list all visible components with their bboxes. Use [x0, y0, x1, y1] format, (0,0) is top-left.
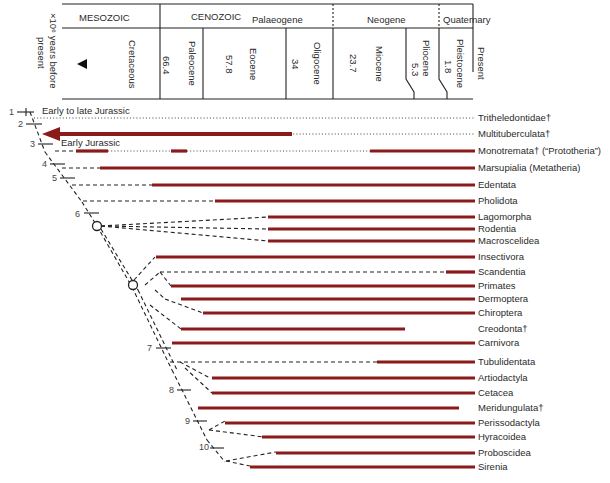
- taxon-label: Hyracoidea: [478, 431, 527, 442]
- phylogeny-diagram: MESOZOIC CENOZOIC Palaeogene Neogene Qua…: [0, 0, 610, 483]
- node-10: 10: [199, 442, 209, 452]
- annotation-early-jurassic: Early Jurassic: [61, 137, 120, 148]
- timescale-header: MESOZOIC CENOZOIC Palaeogene Neogene Qua…: [36, 4, 491, 99]
- node-8: 8: [169, 385, 174, 395]
- arrow-left-icon: [77, 59, 87, 69]
- taxon-label: Monotremata† (“Prototheria”): [478, 145, 601, 156]
- taxon-label: Perissodactyla: [478, 417, 540, 428]
- period-quaternary: Quaternary: [443, 14, 491, 25]
- epoch-present: Present: [476, 47, 487, 80]
- node-5: 5: [52, 173, 57, 183]
- age-23-7: 23.7: [348, 54, 359, 73]
- taxon-label: Chiroptera: [478, 307, 523, 318]
- node-4: 4: [42, 159, 47, 169]
- epoch-pliocene: Pliocene: [421, 40, 432, 76]
- epoch-eocene: Eocene: [248, 48, 259, 80]
- node-circle: [129, 281, 138, 290]
- period-palaeogene: Palaeogene: [252, 14, 303, 25]
- epoch-paleocene: Paleocene: [187, 41, 198, 86]
- taxon-label: Sirenia: [478, 461, 508, 472]
- taxon-label: Insectivora: [478, 251, 525, 262]
- age-57-8: 57.8: [224, 55, 235, 74]
- range-bars: [100, 168, 475, 467]
- node-6: 6: [75, 209, 80, 219]
- taxon-label: Tritheledontidae†: [478, 112, 551, 123]
- node-1: 1: [9, 107, 14, 117]
- taxon-label: Rodentia: [478, 223, 517, 234]
- annotation-early-to-late-jurassic: Early to late Jurassic: [42, 105, 130, 116]
- axis-label-line1: ×10⁶ years before: [48, 13, 59, 88]
- epoch-oligocene: Oligocene: [312, 42, 323, 85]
- node-7: 7: [147, 343, 152, 353]
- period-neogene: Neogene: [367, 14, 406, 25]
- axis-label-line2: present: [36, 37, 47, 69]
- taxon-label: Creodonta†: [478, 323, 528, 334]
- age-34: 34: [290, 59, 301, 70]
- epoch-pleistocene: Pleistocene: [455, 39, 466, 88]
- epoch-cretaceous: Cretaceous: [127, 40, 138, 89]
- node-markers: 1 2 3 4 5 6 7 8 9 10: [9, 107, 224, 452]
- node-9: 9: [185, 416, 190, 426]
- taxon-label: Dermoptera: [478, 293, 529, 304]
- taxon-label: Marsupialia (Metatheria): [478, 162, 580, 173]
- taxon-label: Artiodactyla: [478, 372, 528, 383]
- era-cenozoic: CENOZOIC: [191, 11, 241, 22]
- taxon-label: Meridungulata†: [478, 402, 544, 413]
- taxon-label: Cetacea: [478, 387, 514, 398]
- age-5-3: 5.3: [410, 63, 421, 76]
- early-lineages: Early to late Jurassic Early Jurassic: [34, 105, 475, 151]
- taxon-label: Multituberculata†: [478, 128, 550, 139]
- age-66-4: 66.4: [161, 56, 172, 75]
- taxon-label: Edentata: [478, 179, 517, 190]
- taxon-label: Carnivora: [478, 337, 520, 348]
- tree-branches: [30, 112, 445, 466]
- taxon-label: Lagomorpha: [478, 211, 532, 222]
- node-3: 3: [30, 139, 35, 149]
- taxon-label: Scandentia: [478, 266, 526, 277]
- node-circle: [93, 222, 102, 231]
- era-mesozoic: MESOZOIC: [79, 12, 130, 23]
- taxon-label: Tubulidentata: [478, 356, 536, 367]
- epoch-miocene: Miocene: [374, 46, 385, 82]
- taxon-label: Primates: [478, 280, 516, 291]
- taxon-label: Pholidota: [478, 195, 518, 206]
- taxon-label: Proboscidea: [478, 447, 532, 458]
- taxon-labels: Tritheledontidae† Multituberculata† Mono…: [478, 112, 601, 472]
- arrow-left-icon: [42, 127, 60, 141]
- node-2: 2: [18, 119, 23, 129]
- taxon-label: Macroscelidea: [478, 235, 540, 246]
- age-1-8: 1.8: [443, 60, 454, 73]
